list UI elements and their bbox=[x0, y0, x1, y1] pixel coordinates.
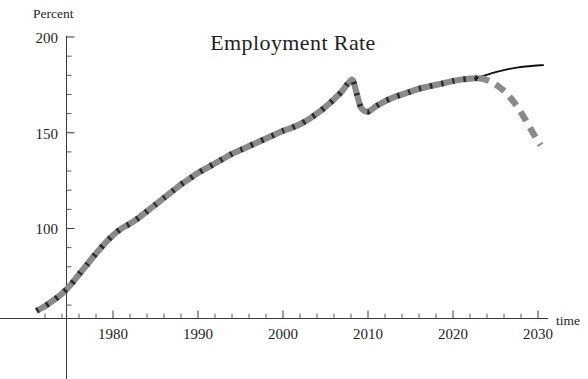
x-tick-label-2020: 2020 bbox=[438, 326, 468, 342]
y-tick-label-150: 150 bbox=[36, 126, 59, 142]
y-tick-label-200: 200 bbox=[36, 30, 59, 46]
x-tick-label-1980: 1980 bbox=[98, 326, 128, 342]
employment-rate-chart: Employment Rate Percent time 200 150 100… bbox=[0, 0, 588, 379]
x-tick-label-2010: 2010 bbox=[353, 326, 383, 342]
projection-dashed-line bbox=[479, 78, 541, 145]
x-axis-label: time bbox=[556, 313, 580, 328]
y-tick-label-100: 100 bbox=[36, 221, 59, 237]
x-tick-label-1990: 1990 bbox=[183, 326, 213, 342]
series-layer bbox=[37, 65, 544, 311]
x-axis-ticks bbox=[45, 311, 538, 319]
history-line-base bbox=[37, 78, 479, 311]
y-axis-label: Percent bbox=[33, 6, 74, 21]
text-layer: Employment Rate Percent time 200 150 100… bbox=[33, 6, 580, 342]
chart-title: Employment Rate bbox=[210, 30, 375, 55]
x-tick-label-2000: 2000 bbox=[268, 326, 298, 342]
history-line-dashes bbox=[37, 78, 479, 311]
chart-canvas: Employment Rate Percent time 200 150 100… bbox=[0, 0, 588, 379]
x-tick-label-2030: 2030 bbox=[523, 326, 553, 342]
y-axis-ticks bbox=[67, 37, 75, 305]
